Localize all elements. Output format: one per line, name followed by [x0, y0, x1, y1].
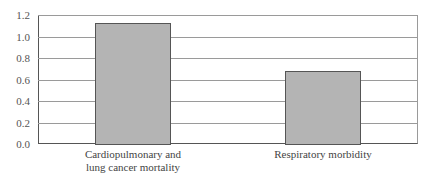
y-tick-label: 0.8: [2, 52, 30, 64]
y-tick-label: 0.0: [2, 138, 30, 150]
gridline: [38, 15, 418, 16]
x-category-label: Cardiopulmonary andlung cancer mortality: [63, 148, 203, 174]
bar: [285, 71, 361, 145]
bar: [95, 23, 171, 145]
bar-chart: 0.00.20.40.60.81.01.2 Cardiopulmonary an…: [0, 0, 431, 175]
y-tick-label: 0.6: [2, 74, 30, 86]
x-category-label-line: Cardiopulmonary and: [63, 148, 203, 161]
x-category-label: Respiratory morbidity: [253, 148, 393, 161]
y-tick-label: 1.0: [2, 31, 30, 43]
y-tick-label: 0.4: [2, 95, 30, 107]
y-tick-label: 0.2: [2, 117, 30, 129]
y-tick-label: 1.2: [2, 9, 30, 21]
x-category-label-line: Respiratory morbidity: [253, 148, 393, 161]
x-category-label-line: lung cancer mortality: [63, 161, 203, 174]
